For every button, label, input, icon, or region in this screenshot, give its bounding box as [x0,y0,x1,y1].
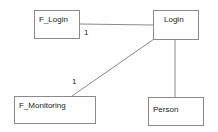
node-f-monitoring[interactable]: F_Monitoring [14,96,96,124]
node-label: F_Login [39,15,68,24]
edge-f-login-login [80,24,153,25]
node-label: F_Monitoring [19,101,66,110]
multiplicity-label: 1 [84,28,88,37]
node-person[interactable]: Person [148,97,204,126]
node-label: Person [153,105,178,114]
multiplicity-label: 1 [72,77,76,86]
node-f-login[interactable]: F_Login [34,10,80,39]
node-login[interactable]: Login [153,10,199,40]
edge-login-f-monitoring [72,39,154,96]
node-label: Login [164,15,184,24]
